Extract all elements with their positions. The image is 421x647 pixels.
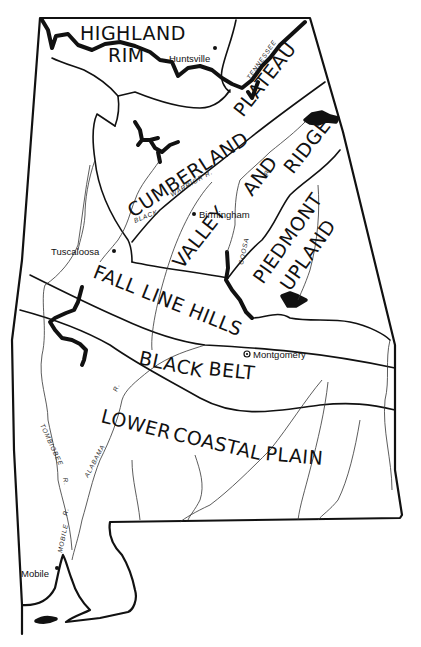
label-coosa: COOSA	[237, 237, 250, 265]
alabama-physiographic-map: HIGHLAND RIM CUMBERLAND PLATEAU VALLEY A…	[0, 0, 421, 647]
svg-text:Mobile: Mobile	[21, 568, 49, 579]
lake-martin	[282, 293, 306, 306]
boundary-highland-rim	[52, 58, 119, 126]
label-alabama: ALABAMA	[82, 443, 106, 479]
city-dot-icon	[213, 46, 217, 50]
smith-lake	[135, 122, 178, 162]
boundary-piedmont-south	[252, 314, 390, 340]
svg-text:Birmingham: Birmingham	[199, 209, 250, 220]
label-mobile: MOBILE	[56, 523, 69, 553]
label-mobile-r: R.	[61, 507, 70, 516]
svg-text:BELT: BELT	[208, 357, 257, 384]
city-dot-icon	[55, 566, 59, 570]
river-sipsey	[78, 160, 95, 250]
boundary-plateau-west	[93, 114, 132, 262]
svg-text:HIGHLAND: HIGHLAND	[80, 22, 186, 44]
boundary-highland-rim-south	[118, 90, 230, 108]
city-dot-icon	[192, 212, 196, 216]
city-montgomery: Montgomery	[244, 349, 306, 360]
label-tombigbee-r: R.	[62, 477, 70, 486]
river-choctawhatchee	[318, 420, 360, 520]
svg-text:Tuscaloosa: Tuscaloosa	[51, 246, 100, 257]
label-black-belt: BLACK BELT	[137, 346, 256, 383]
river-escambia	[132, 460, 140, 520]
island-dauphin	[36, 618, 56, 622]
city-dot-icon	[112, 249, 116, 253]
label-ridge: RIDGE	[279, 115, 335, 178]
svg-text:PLAIN: PLAIN	[265, 442, 324, 469]
city-birmingham: Birmingham	[192, 209, 250, 220]
map-canvas: HIGHLAND RIM CUMBERLAND PLATEAU VALLEY A…	[0, 0, 421, 647]
city-mobile: Mobile	[21, 566, 59, 579]
label-tombigbee: TOMBIGBEE	[39, 422, 65, 466]
svg-text:Huntsville: Huntsville	[169, 53, 210, 64]
city-tuscaloosa: Tuscaloosa	[51, 246, 116, 257]
svg-text:BLACK: BLACK	[137, 346, 205, 381]
label-fall-line-hills: FALL LINE HILLS	[91, 260, 246, 340]
city-huntsville: Huntsville	[169, 46, 217, 64]
river-chattahoochee	[384, 340, 392, 490]
label-alabama-r: R.	[111, 382, 120, 392]
svg-text:COASTAL: COASTAL	[171, 422, 264, 464]
svg-text:Montgomery: Montgomery	[253, 349, 306, 360]
label-lower-coastal-plain: LOWER COASTAL PLAIN	[99, 405, 324, 469]
svg-text:RIM: RIM	[108, 44, 145, 66]
